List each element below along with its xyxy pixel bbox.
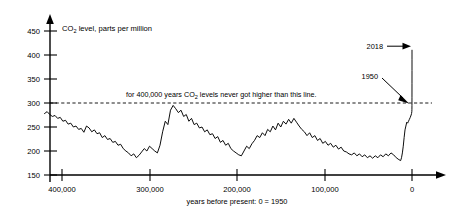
x-axis	[50, 171, 446, 179]
threshold-annotation-text: for 400,000 years CO2 levels never got h…	[126, 90, 317, 100]
y-axis-arrowhead	[46, 14, 54, 24]
y-tick-label-200: 200	[27, 147, 40, 156]
co2-ice-core-chart: 450 400 350 300 250 200 150 400,000 300,…	[0, 0, 458, 208]
y-axis-title-post: level, parts per million	[77, 24, 153, 33]
y-tick-label-450: 450	[27, 27, 40, 36]
annotation-1950-arrowhead	[398, 95, 409, 104]
annotation-2018-arrowhead	[403, 43, 412, 50]
y-tick-label-300: 300	[27, 99, 40, 108]
x-tick-label-200000: 200,000	[223, 185, 250, 194]
y-tick-label-400: 400	[27, 51, 40, 60]
x-axis-arrowhead	[436, 171, 446, 179]
chart-svg: 450 400 350 300 250 200 150 400,000 300,…	[0, 0, 458, 208]
x-tick-label-0: 0	[410, 185, 414, 194]
annotation-1950-label: 1950	[362, 72, 378, 81]
y-tick-label-150: 150	[27, 171, 40, 180]
x-tick-label-300000: 300,000	[136, 185, 163, 194]
y-tick-label-350: 350	[27, 75, 40, 84]
x-axis-caption: years before present: 0 = 1950	[187, 197, 288, 206]
y-tick-label-250: 250	[27, 123, 40, 132]
threshold-text-post: levels never got higher than this line.	[198, 90, 317, 99]
y-axis-title: CO2 level, parts per million	[62, 24, 152, 34]
annotation-2018: 2018	[367, 42, 411, 51]
threshold-text-pre: for 400,000 years CO	[126, 90, 195, 99]
annotation-1950-leader	[382, 78, 403, 98]
y-axis-title-pre: CO	[62, 24, 73, 33]
x-tick-label-400000: 400,000	[48, 185, 75, 194]
co2-series-line	[45, 50, 413, 160]
annotation-1950: 1950	[362, 72, 409, 104]
annotation-2018-label: 2018	[367, 42, 383, 51]
y-axis	[46, 14, 54, 182]
x-tick-label-100000: 100,000	[311, 185, 338, 194]
x-tick-group: 400,000 300,000 200,000 100,000 0	[48, 169, 414, 194]
